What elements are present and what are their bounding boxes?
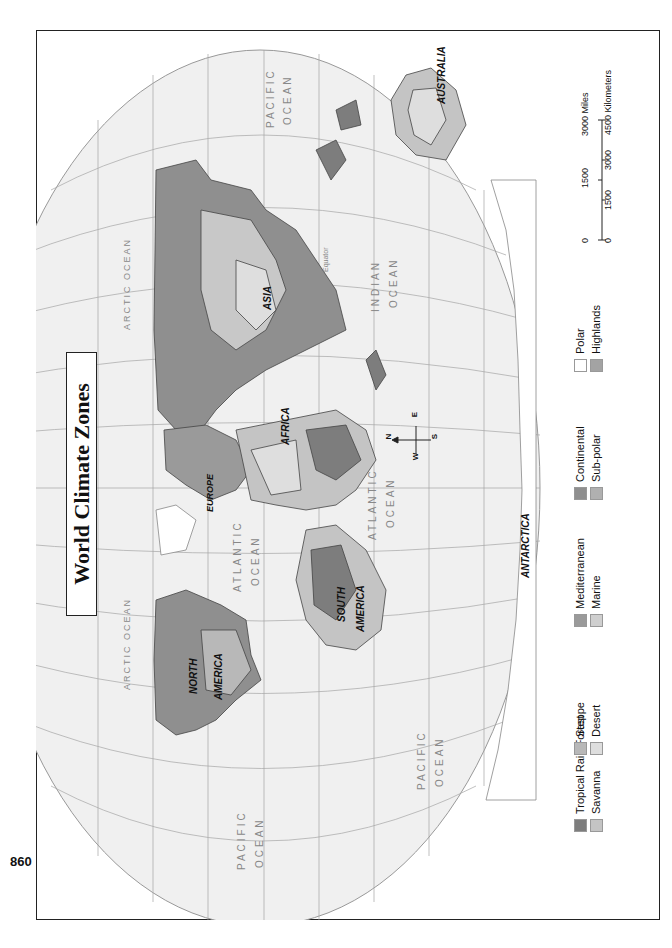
swatch-sub-polar [590, 487, 603, 500]
compass-s: S [430, 434, 439, 439]
label-indian-1: INDIAN [370, 260, 381, 312]
swatch-marine [590, 614, 603, 627]
swatch-continental [574, 487, 587, 500]
legend-steppe: Steppe [574, 615, 590, 755]
label-pacific-west-2: OCEAN [254, 817, 265, 868]
label-pacific-east-1: PACIFIC [416, 730, 427, 790]
swatch-polar [574, 359, 587, 372]
legend-highlands: Highlands [590, 232, 606, 372]
label-south-america-2: AMERICA [355, 585, 366, 632]
compass-n: N [384, 434, 393, 440]
label-pacific-east-2: OCEAN [434, 736, 445, 787]
label-arctic-1: ARCTIC OCEAN [122, 238, 132, 330]
scale-km-3000: 3000 [603, 150, 613, 170]
world-map [36, 30, 660, 920]
compass-w: W [411, 453, 420, 461]
legend-desert: Desert [590, 615, 606, 755]
scale-miles-1500: 1500 [580, 168, 590, 188]
scale-miles-0: 0 [580, 238, 590, 243]
label-africa: AFRICA [280, 407, 291, 445]
label-atlantic-south-2: OCEAN [385, 477, 396, 528]
scale-km-4500: 4500 Kilometers [603, 70, 613, 135]
label-pacific-top-2: OCEAN [282, 74, 293, 125]
label-pacific-top-1: PACIFIC [265, 68, 276, 128]
swatch-tropical-rain-forest [574, 819, 587, 832]
label-atlantic-north-1: ATLANTIC [232, 520, 243, 592]
scale-km-1500: 1500 [603, 190, 613, 210]
equator-label: Equator [322, 247, 329, 272]
label-north-america-2: AMERICA [213, 653, 224, 700]
page-number: 860 [10, 854, 32, 869]
legend-marine: Marine [590, 487, 606, 627]
swatch-steppe [574, 742, 587, 755]
label-indian-2: OCEAN [388, 257, 399, 308]
compass-e: E [410, 412, 419, 417]
legend-polar: Polar [574, 232, 590, 372]
label-north-america-1: NORTH [188, 659, 199, 694]
scale-bar [598, 120, 606, 240]
swatch-highlands [590, 359, 603, 372]
swatch-mediterranean [574, 614, 587, 627]
label-atlantic-south-1: ATLANTIC [367, 468, 378, 540]
map-title: World Climate Zones [69, 383, 95, 585]
label-pacific-west-1: PACIFIC [236, 810, 247, 870]
label-europe: EUROPE [205, 474, 215, 512]
legend-mediterranean: Mediterranean [574, 487, 590, 627]
label-south-america-1: SOUTH [336, 587, 347, 622]
map-title-box: World Climate Zones [66, 352, 97, 616]
label-asia: ASIA [262, 286, 273, 310]
swatch-savanna [590, 819, 603, 832]
legend-continental: Continental [574, 360, 590, 500]
legend-sub-polar: Sub-polar [590, 360, 606, 500]
scale-miles-3000: 3000 Miles [580, 92, 590, 136]
label-australia: AUSTRALIA [436, 46, 447, 104]
label-antarctica: ANTARCTICA [520, 513, 531, 578]
scale-km-0: 0 [603, 238, 613, 243]
label-arctic-2: ARCTIC OCEAN [122, 598, 132, 690]
label-atlantic-north-2: OCEAN [250, 535, 261, 586]
swatch-desert [590, 742, 603, 755]
